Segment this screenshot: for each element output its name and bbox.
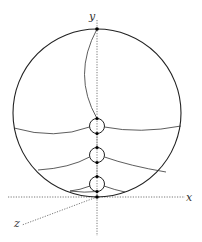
point [95,132,98,135]
point [95,175,98,178]
z-axis-label: z [13,217,20,230]
meridian-arc [85,29,98,119]
point [95,190,98,193]
point [95,146,98,149]
coordinate-circle-diagram: y x z [0,0,202,242]
z-axis [22,197,97,225]
point [95,161,98,164]
origin-point [95,195,99,199]
point [95,117,98,120]
y-axis-label: y [88,10,96,23]
x-axis-label: x [186,191,193,204]
top-point [95,27,99,31]
